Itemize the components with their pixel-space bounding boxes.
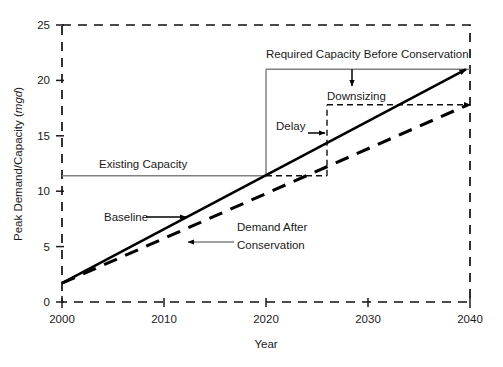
series-demand-after-conservation — [62, 105, 468, 283]
xtick-label-2030: 2030 — [355, 313, 381, 325]
annotation-required-capacity: Required Capacity Before Conservation — [266, 48, 469, 60]
xtick-label-2000: 2000 — [49, 313, 75, 325]
annotation-delay: Delay — [276, 120, 306, 132]
xtick-label-2020: 2020 — [253, 313, 279, 325]
annotation-demand-after-conservation-line2: Conservation — [237, 239, 305, 251]
ytick-label-20: 20 — [37, 74, 50, 86]
ytick-label-25: 25 — [37, 19, 50, 31]
annotation-downsizing: Downsizing — [327, 90, 386, 102]
y-axis-title-italic: mgd — [12, 90, 24, 113]
ytick-label-10: 10 — [37, 185, 50, 197]
annotation-baseline: Baseline — [104, 211, 148, 223]
x-axis-title: Year — [254, 338, 277, 350]
chart-figure: 0 5 10 15 20 25 2000 2010 2020 2030 2040… — [0, 0, 503, 367]
ytick-label-0: 0 — [44, 296, 50, 308]
ytick-label-5: 5 — [44, 241, 50, 253]
annotation-existing-capacity: Existing Capacity — [99, 158, 187, 170]
chart-canvas: 0 5 10 15 20 25 2000 2010 2020 2030 2040… — [0, 0, 503, 367]
xtick-label-2040: 2040 — [457, 313, 483, 325]
ytick-label-15: 15 — [37, 130, 50, 142]
annotation-demand-after-conservation-line1: Demand After — [237, 221, 307, 233]
y-axis-title: Peak Demand/Capacity (mgd) — [12, 87, 24, 241]
y-axis-title-plain: Peak Demand/Capacity ( — [12, 113, 24, 241]
y-axis-title-close: ) — [12, 87, 24, 91]
svg-text:Peak Demand/Capacity (mgd): Peak Demand/Capacity (mgd) — [12, 87, 24, 241]
xtick-label-2010: 2010 — [151, 313, 177, 325]
